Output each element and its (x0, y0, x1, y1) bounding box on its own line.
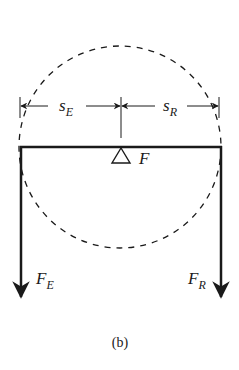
label-fulcrum: F (138, 149, 150, 168)
fulcrum-triangle-icon (112, 148, 130, 163)
figure-caption: (b) (112, 335, 129, 351)
label-f-r: FR (187, 269, 206, 292)
label-f-e: FE (35, 269, 54, 292)
label-s-r: sR (163, 96, 178, 119)
lever-diagram: sE sR F FE FR (b) (0, 0, 239, 370)
label-s-e: sE (59, 96, 74, 119)
